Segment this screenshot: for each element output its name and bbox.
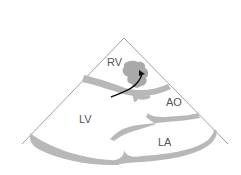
label-la: LA (158, 136, 172, 148)
septum-band (82, 75, 171, 96)
label-rv: RV (107, 56, 123, 68)
label-ao: AO (166, 96, 182, 108)
label-lv: LV (79, 113, 92, 125)
aortic-posterior-wall (110, 113, 200, 141)
heart-sector-diagram: RV LV AO LA (0, 0, 241, 175)
